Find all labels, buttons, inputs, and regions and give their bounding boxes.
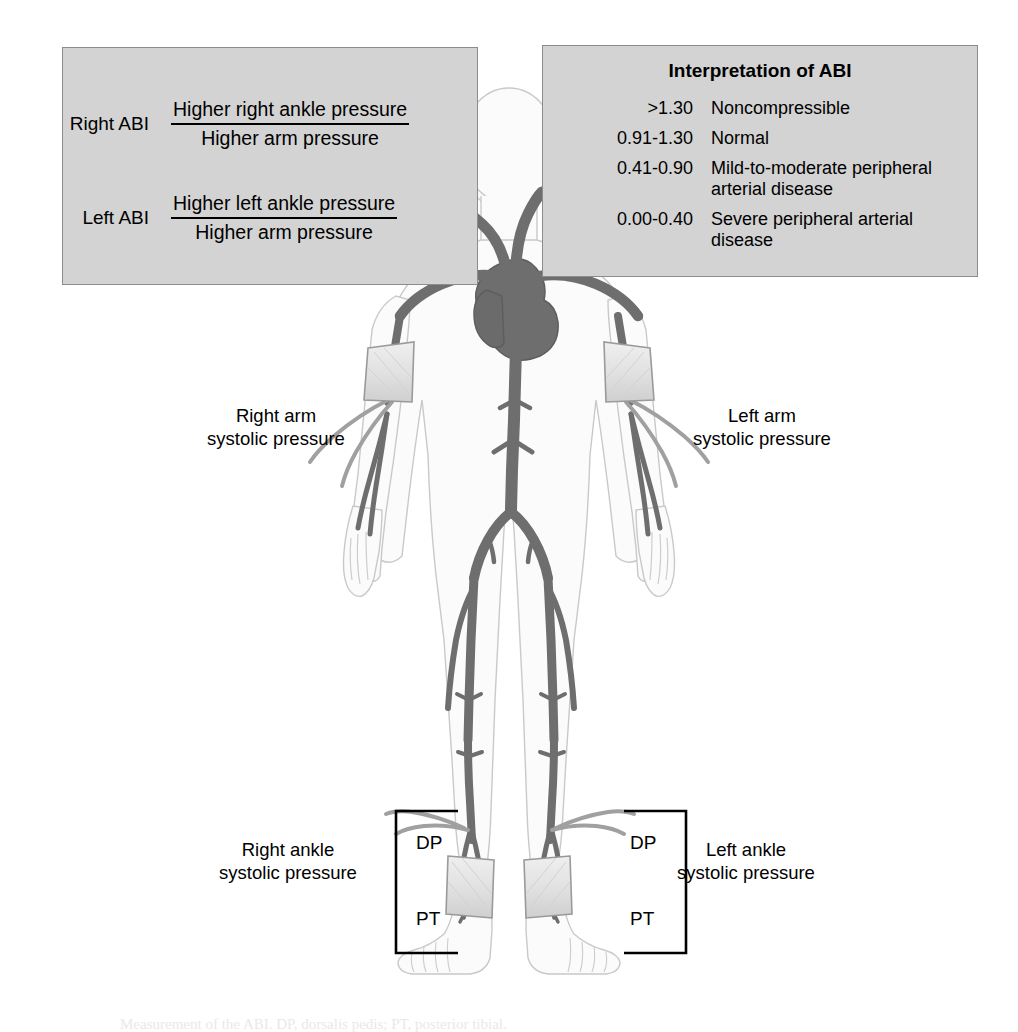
- left-facing-bracket-icon: [392, 808, 464, 956]
- right-posterior-tibial-tag: PT: [416, 908, 440, 930]
- left-arm-pressure-label: Left arm systolic pressure: [664, 404, 860, 450]
- abi-interpretation-panel: Interpretation of ABI >1.30 Noncompressi…: [542, 45, 978, 277]
- right-ankle-vessel-bracket: DP PT: [392, 808, 464, 956]
- abi-formula-panel: Right ABI Higher right ankle pressure Hi…: [62, 47, 478, 285]
- table-row: >1.30 Noncompressible: [543, 98, 977, 119]
- abi-diagram-figure: Right ABI Higher right ankle pressure Hi…: [0, 0, 1018, 1032]
- left-abi-numerator: Higher left ankle pressure: [171, 192, 397, 219]
- right-ankle-pressure-label: Right ankle systolic pressure: [188, 838, 388, 884]
- abi-description: Mild-to-moderate peripheral arterial dis…: [711, 158, 959, 200]
- abi-range: 0.00-0.40: [543, 209, 711, 230]
- left-ankle-tubing-b: [552, 826, 624, 835]
- interpretation-table: >1.30 Noncompressible 0.91-1.30 Normal 0…: [543, 98, 977, 260]
- right-abi-denominator: Higher arm pressure: [201, 125, 379, 150]
- right-abi-fraction: Higher right ankle pressure Higher arm p…: [171, 98, 409, 150]
- left-dorsalis-pedis-tag: DP: [630, 832, 656, 854]
- left-posterior-tibial-tag: PT: [630, 908, 654, 930]
- left-abi-formula-row: Left ABI Higher left ankle pressure High…: [67, 192, 397, 244]
- left-ankle-vessel-bracket: DP PT: [618, 808, 690, 956]
- right-facing-bracket-icon: [618, 808, 690, 956]
- left-abi-label: Left ABI: [67, 207, 171, 229]
- right-abi-numerator: Higher right ankle pressure: [171, 98, 409, 125]
- descending-aorta: [511, 348, 516, 510]
- table-row: 0.91-1.30 Normal: [543, 128, 977, 149]
- abi-description: Severe peripheral arterial disease: [711, 209, 959, 251]
- left-abi-fraction: Higher left ankle pressure Higher arm pr…: [171, 192, 397, 244]
- left-hand-shape: [636, 506, 675, 596]
- figure-caption: Measurement of the ABI. DP, dorsalis ped…: [120, 1016, 910, 1032]
- abi-range: 0.41-0.90: [543, 158, 711, 179]
- right-abi-formula-row: Right ABI Higher right ankle pressure Hi…: [67, 98, 409, 150]
- interpretation-title: Interpretation of ABI: [543, 60, 977, 82]
- right-hand-shape: [344, 506, 383, 596]
- left-abi-denominator: Higher arm pressure: [195, 219, 373, 244]
- abi-range: 0.91-1.30: [543, 128, 711, 149]
- table-row: 0.41-0.90 Mild-to-moderate peripheral ar…: [543, 158, 977, 200]
- abi-description: Normal: [711, 128, 769, 149]
- right-abi-label: Right ABI: [67, 113, 171, 135]
- right-dorsalis-pedis-tag: DP: [416, 832, 442, 854]
- table-row: 0.00-0.40 Severe peripheral arterial dis…: [543, 209, 977, 251]
- abi-range: >1.30: [543, 98, 711, 119]
- right-arm-pressure-label: Right arm systolic pressure: [178, 404, 374, 450]
- abi-description: Noncompressible: [711, 98, 850, 119]
